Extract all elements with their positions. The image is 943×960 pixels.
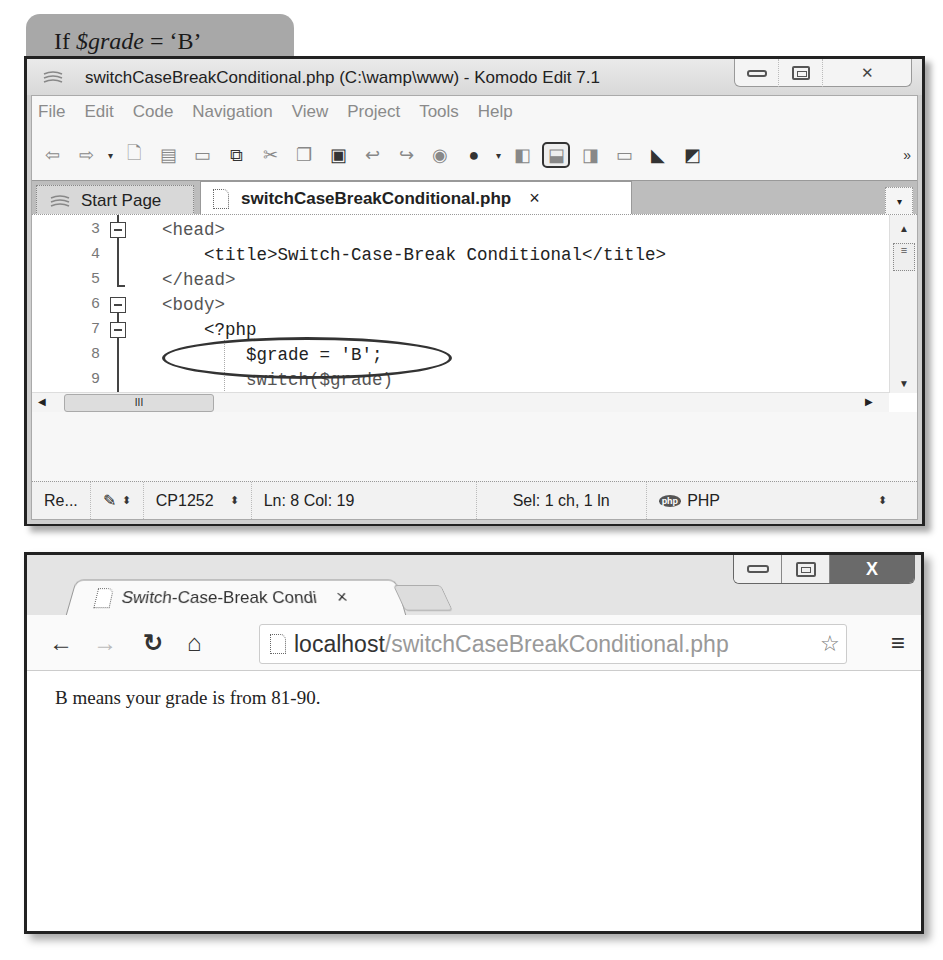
spinner-icon: ⬍ xyxy=(122,494,131,507)
fold-end-marker xyxy=(117,285,125,287)
code-line: <title>Switch-Case-Break Conditional</ti… xyxy=(162,245,666,265)
url-host: localhost xyxy=(294,631,385,657)
tab-start-page[interactable]: Start Page xyxy=(36,185,194,215)
komodo-window: switchCaseBreakConditional.php (C:\wamp\… xyxy=(24,56,925,526)
menu-hamburger-icon[interactable]: ≡ xyxy=(891,629,905,657)
run-icon[interactable]: ● xyxy=(460,142,488,168)
fold-toggle-icon[interactable] xyxy=(110,222,126,238)
toggle-left-pane-icon[interactable]: ◧ xyxy=(508,142,536,168)
horizontal-scrollbar[interactable]: ◀ III ▶ xyxy=(32,392,889,412)
menu-view[interactable]: View xyxy=(292,102,329,122)
code-line: </head> xyxy=(162,270,236,290)
minimize-button[interactable] xyxy=(734,555,782,583)
save-all-icon[interactable]: ⧉ xyxy=(222,142,250,168)
back-icon[interactable]: ← xyxy=(49,629,73,657)
close-icon: X xyxy=(866,559,878,580)
status-encoding[interactable]: CP1252⬍ xyxy=(144,482,252,519)
history-dropdown-icon[interactable]: ▾ xyxy=(106,150,114,161)
status-mode[interactable]: Re... xyxy=(32,482,91,519)
browser-preview-icon[interactable]: ◉ xyxy=(426,142,454,168)
tab-switch-case-file[interactable]: switchCaseBreakConditional.php × xyxy=(200,181,632,215)
minimize-icon xyxy=(747,565,769,573)
line-number: 4 xyxy=(82,246,100,263)
toggle-bottom-pane-icon[interactable]: ⬓ xyxy=(542,142,570,168)
browser-window: X Switch-Case-Break Condi × ← → ↻ ⌂ loca… xyxy=(24,552,924,934)
maximize-icon xyxy=(796,562,816,577)
scroll-up-icon[interactable]: ▲ xyxy=(899,223,909,234)
maximize-button[interactable] xyxy=(782,555,830,583)
menu-file[interactable]: File xyxy=(38,102,65,122)
maximize-icon xyxy=(792,66,810,80)
page-output-text: B means your grade is from 81-90. xyxy=(55,687,320,709)
toggle-right-pane-icon[interactable]: ◨ xyxy=(576,142,604,168)
komodo-body: File Edit Code Navigation View Project T… xyxy=(31,95,918,520)
status-selection: Sel: 1 ch, 1 ln xyxy=(477,482,647,519)
address-bar[interactable]: localhost/switchCaseBreakConditional.php… xyxy=(259,624,847,664)
workspace-icon[interactable]: ▭ xyxy=(610,142,638,168)
page-content: B means your grade is from 81-90. xyxy=(27,671,921,931)
browser-tab[interactable]: Switch-Case-Break Condi × xyxy=(66,580,407,616)
menu-code[interactable]: Code xyxy=(133,102,174,122)
status-check[interactable]: ✎⬍ xyxy=(91,482,144,519)
undo-icon[interactable]: ↩ xyxy=(358,142,386,168)
back-icon[interactable]: ⇦ xyxy=(38,142,66,168)
scroll-left-icon[interactable]: ◀ xyxy=(38,396,46,407)
forward-icon[interactable]: → xyxy=(93,629,117,657)
cursor-position: Ln: 8 Col: 19 xyxy=(264,492,355,510)
maximize-button[interactable] xyxy=(779,59,823,87)
menu-project[interactable]: Project xyxy=(347,102,400,122)
vertical-scrollbar[interactable]: ▲ ≡ ▼ xyxy=(889,215,917,393)
cut-icon[interactable]: ✂ xyxy=(256,142,284,168)
fold-line xyxy=(117,305,119,395)
figure-label-text: If $grade = ‘B’ xyxy=(54,28,202,55)
minimize-button[interactable] xyxy=(735,59,779,87)
scroll-thumb[interactable]: III xyxy=(64,394,214,412)
tab-list-dropdown[interactable]: ▾ xyxy=(885,187,913,215)
window-controls: X xyxy=(733,555,915,584)
save-icon[interactable]: ▭ xyxy=(188,142,216,168)
reload-icon[interactable]: ↻ xyxy=(143,629,163,657)
browser-toolbar: ← → ↻ ⌂ localhost/switchCaseBreakConditi… xyxy=(27,615,921,671)
screen-icon[interactable]: ◩ xyxy=(678,142,706,168)
line-number: 9 xyxy=(82,371,100,388)
line-number: 7 xyxy=(82,321,100,338)
menu-edit[interactable]: Edit xyxy=(84,102,113,122)
redo-icon[interactable]: ↪ xyxy=(392,142,420,168)
home-icon[interactable]: ⌂ xyxy=(187,629,202,657)
forward-icon[interactable]: ⇨ xyxy=(72,142,100,168)
bookmark-star-icon[interactable]: ☆ xyxy=(820,631,840,657)
window-title: switchCaseBreakConditional.php (C:\wamp\… xyxy=(85,68,600,88)
page-icon xyxy=(93,588,114,608)
komodo-app-icon xyxy=(43,71,63,83)
close-button[interactable]: X xyxy=(830,555,914,583)
code-line: <body> xyxy=(162,295,225,315)
line-number: 5 xyxy=(82,271,100,288)
menu-tools[interactable]: Tools xyxy=(419,102,459,122)
status-bar: Re... ✎⬍ CP1252⬍ Ln: 8 Col: 19 Sel: 1 ch… xyxy=(32,481,917,519)
selection-info: Sel: 1 ch, 1 ln xyxy=(513,492,610,510)
close-tab-icon[interactable]: × xyxy=(335,587,349,608)
paste-icon[interactable]: ▣ xyxy=(324,142,352,168)
komodo-resources-icon[interactable]: ◣ xyxy=(644,142,672,168)
tab-label: Start Page xyxy=(81,191,161,211)
fold-toggle-icon[interactable] xyxy=(110,322,126,338)
komodo-logo-icon xyxy=(49,195,71,207)
status-language[interactable]: php PHP ⬍ xyxy=(647,482,917,519)
scroll-thumb[interactable]: ≡ xyxy=(893,243,915,271)
copy-icon[interactable]: ❐ xyxy=(290,142,318,168)
close-icon: ✕ xyxy=(861,64,874,82)
new-file-icon[interactable]: 🗋 xyxy=(120,142,148,168)
menu-navigation[interactable]: Navigation xyxy=(192,102,272,122)
open-file-icon[interactable]: ▤ xyxy=(154,142,182,168)
close-tab-icon[interactable]: × xyxy=(529,188,540,209)
status-position: Ln: 8 Col: 19 xyxy=(252,482,477,519)
fold-toggle-icon[interactable] xyxy=(110,297,126,313)
scroll-down-icon[interactable]: ▼ xyxy=(899,378,909,389)
toolbar-overflow-icon[interactable]: » xyxy=(903,147,911,163)
run-dropdown-icon[interactable]: ▾ xyxy=(494,150,502,161)
close-button[interactable]: ✕ xyxy=(823,59,911,87)
encoding-text: CP1252 xyxy=(156,492,214,510)
menu-help[interactable]: Help xyxy=(478,102,513,122)
code-editor[interactable]: 3 4 5 6 7 8 9 <head> <title>Switch-Case-… xyxy=(32,214,917,412)
scroll-right-icon[interactable]: ▶ xyxy=(865,396,873,407)
